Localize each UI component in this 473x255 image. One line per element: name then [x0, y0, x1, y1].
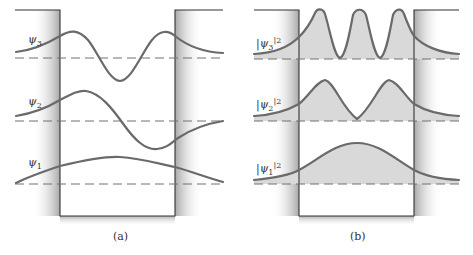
panel-a: ψ3 ψ2 ψ1 (a): [15, 10, 223, 243]
finite-well-diagram: ψ3 ψ2 ψ1 (a) |ψ3|2 |ψ2|2 |ψ1|2 (b): [0, 0, 473, 255]
caption-a: (a): [113, 230, 128, 243]
well-bottom-shade: [60, 216, 175, 226]
right-wall-shade: [175, 10, 203, 216]
panel-b: |ψ3|2 |ψ2|2 |ψ1|2 (b): [254, 9, 459, 243]
caption-b: (b): [350, 230, 366, 243]
well-bottom-shade: [299, 216, 414, 226]
